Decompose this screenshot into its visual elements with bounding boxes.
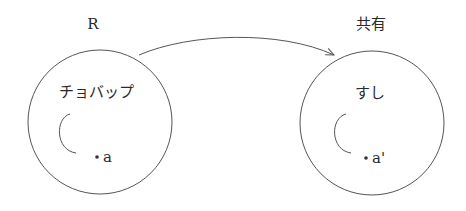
left-set-title: R	[87, 15, 99, 33]
left-point-label: a	[103, 148, 112, 166]
right-set-inner-label: すし	[355, 84, 385, 102]
diagram-canvas: R チョバップ a 共有 すし a'	[0, 0, 466, 211]
right-point-label: a'	[372, 149, 385, 167]
right-set-title: 共有	[356, 15, 386, 33]
right-set-circle	[300, 51, 444, 195]
right-subset-arc	[335, 114, 351, 153]
left-subset-arc	[59, 114, 76, 153]
left-point-dot	[95, 155, 99, 159]
mapping-arrow	[139, 37, 334, 55]
left-set: R チョバップ a	[28, 15, 172, 194]
left-set-inner-label: チョバップ	[59, 83, 134, 101]
left-set-circle	[28, 50, 172, 194]
right-set: 共有 すし a'	[300, 15, 444, 195]
right-point-dot	[364, 156, 368, 160]
